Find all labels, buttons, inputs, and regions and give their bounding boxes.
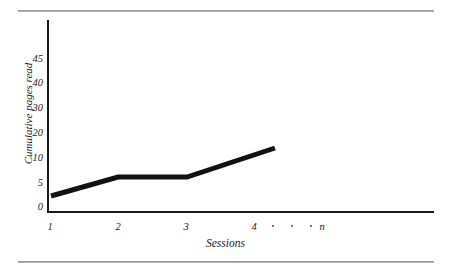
y-tick-0: 0 <box>22 202 43 214</box>
y-tick-label-10: 10 <box>33 153 44 164</box>
y-axis-title: Cumulative pages read <box>23 39 34 189</box>
x-tick-2: 2 <box>110 216 126 234</box>
x-tick-label-1: 1 <box>47 222 52 233</box>
x-tick-label-3: 3 <box>183 222 188 233</box>
data-line-cumulative-pages-read <box>51 148 275 196</box>
x-tick-label-4: 4 <box>251 222 256 233</box>
data-series-svg <box>0 0 451 272</box>
y-tick-label-20: 20 <box>33 128 44 139</box>
x-tick-label-n: n <box>319 222 324 233</box>
bottom-rule <box>18 261 434 263</box>
x-axis-ellipsis-dot-2 <box>291 225 293 227</box>
x-axis-ellipsis-dot-1 <box>272 225 274 227</box>
y-tick-label-45: 45 <box>33 54 44 65</box>
x-tick-n: n <box>314 216 330 234</box>
x-axis-title: Sessions <box>0 238 451 250</box>
y-tick-label-0: 0 <box>38 202 43 213</box>
figure-container: 45 40 30 20 10 5 0 1 2 3 4 <box>0 0 451 272</box>
y-tick-label-30: 30 <box>33 103 44 114</box>
y-tick-label-5: 5 <box>38 178 43 189</box>
x-tick-1: 1 <box>42 216 58 234</box>
y-tick-label-40: 40 <box>33 78 44 89</box>
x-tick-3: 3 <box>178 216 194 234</box>
x-tick-label-2: 2 <box>115 222 120 233</box>
chart-plot-area: 45 40 30 20 10 5 0 1 2 3 4 <box>0 0 451 272</box>
y-axis-line <box>47 20 49 213</box>
x-tick-4: 4 <box>246 216 262 234</box>
x-axis-ellipsis-dot-3 <box>310 225 312 227</box>
x-axis-line <box>47 211 434 213</box>
